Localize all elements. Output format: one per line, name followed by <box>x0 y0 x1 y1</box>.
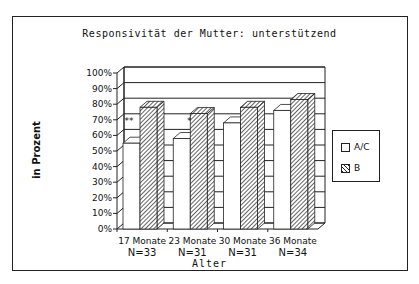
svg-text:30 Monate: 30 Monate <box>219 236 267 246</box>
hatched-swatch-icon <box>341 164 350 173</box>
svg-text:100%: 100% <box>86 68 112 78</box>
svg-text:20%: 20% <box>92 193 112 203</box>
legend-item-ac: A/C <box>341 142 369 152</box>
svg-text:*: * <box>187 116 192 126</box>
svg-text:17 Monate: 17 Monate <box>118 236 166 246</box>
svg-text:0%: 0% <box>98 224 113 234</box>
svg-text:90%: 90% <box>92 84 112 94</box>
legend-item-b: B <box>341 163 360 173</box>
white-swatch-icon <box>341 143 350 152</box>
legend: A/C B <box>332 130 380 182</box>
svg-text:30%: 30% <box>92 177 112 187</box>
svg-text:70%: 70% <box>92 115 112 125</box>
svg-text:40%: 40% <box>92 162 112 172</box>
svg-text:N=33: N=33 <box>128 247 157 258</box>
svg-text:23 Monate: 23 Monate <box>168 236 216 246</box>
svg-text:N=34: N=34 <box>279 247 308 258</box>
svg-text:80%: 80% <box>92 99 112 109</box>
svg-text:N=31: N=31 <box>178 247 207 258</box>
svg-text:N=31: N=31 <box>228 247 257 258</box>
svg-text:36 Monate: 36 Monate <box>269 236 317 246</box>
svg-text:60%: 60% <box>92 130 112 140</box>
svg-text:10%: 10% <box>92 208 112 218</box>
svg-text:**: ** <box>125 116 135 126</box>
svg-text:50%: 50% <box>92 146 112 156</box>
